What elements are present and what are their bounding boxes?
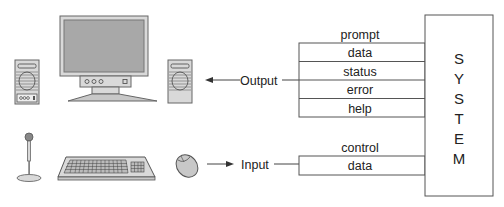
microphone-icon [17, 133, 41, 182]
output-row-error: error [347, 83, 373, 97]
system-letter: S [454, 50, 464, 67]
mouse-icon [172, 150, 203, 181]
input-header-control: control [341, 141, 379, 155]
monitor-icon [60, 16, 157, 101]
output-message-table: prompt data status error help [299, 28, 425, 117]
output-header-prompt: prompt [341, 28, 380, 42]
output-row-help: help [348, 102, 372, 116]
system-letter: Y [454, 70, 464, 87]
output-row-data: data [348, 46, 372, 60]
output-row-status: status [343, 65, 376, 79]
right-speaker-icon [168, 60, 192, 103]
system-letter: S [454, 90, 464, 107]
system-letter: M [453, 150, 466, 167]
system-letter: T [454, 110, 463, 127]
input-row-data: data [348, 159, 372, 173]
system-letter: E [454, 130, 464, 147]
arrow-left-icon [205, 77, 213, 83]
left-speaker-icon [15, 60, 39, 104]
system-box: S Y S T E M [425, 15, 493, 196]
ui-diagram: Output Input prompt data status error he… [0, 0, 504, 207]
output-label: Output [240, 74, 278, 88]
input-message-table: control data [299, 141, 425, 175]
arrow-right-icon [226, 161, 234, 167]
keyboard-icon [58, 157, 155, 180]
input-label: Input [241, 158, 269, 172]
